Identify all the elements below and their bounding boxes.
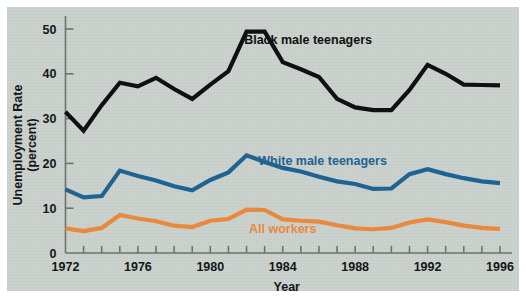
chart-canvas: 010203040501972197619801984198819921996 … [0,0,526,305]
x-axis-tick-label: 1980 [196,260,224,274]
series-annotation-2: White male teenagers [258,154,387,168]
y-axis-tick-label: 0 [50,247,57,261]
series-annotation-1: Black male teenagers [244,33,372,47]
y-axis-title-line1: Unemployment Rate [11,85,25,206]
figure-container: 010203040501972197619801984198819921996 … [0,0,526,305]
x-axis-tick-label: 1992 [414,260,442,274]
y-axis-tick-label: 20 [43,157,57,171]
y-axis-title-line2: (percent) [25,118,39,171]
series-annotations-group: Black male teenagersWhite male teenagers… [244,33,387,236]
y-axis-tick-label: 50 [43,23,57,37]
series-lines-group [66,32,501,231]
x-axis-tick-label: 1996 [486,260,514,274]
x-axis-tick-label: 1984 [269,260,297,274]
x-axis-tick-label: 1972 [52,260,80,274]
series-annotation-3: All workers [249,222,316,236]
y-axis-title: Unemployment Rate(percent) [11,85,39,206]
y-axis-tick-label: 30 [43,112,57,126]
y-axis-tick-label: 40 [43,67,57,81]
x-axis-tick-label: 1988 [341,260,369,274]
x-axis-tick-label: 1976 [124,260,152,274]
y-axis-tick-label: 10 [43,202,57,216]
x-axis-title: Year [274,280,301,294]
